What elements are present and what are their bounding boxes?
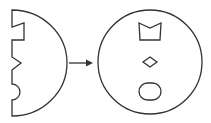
diagram-canvas: [0, 0, 211, 123]
diamond-shape: [143, 57, 157, 67]
trapezoid-shape: [139, 23, 161, 40]
diagram-svg: [0, 0, 211, 123]
right-circle-shape: [98, 10, 202, 114]
arrow-right-icon: [69, 60, 93, 67]
capsule-shape: [139, 83, 161, 100]
left-half-disc-shape: [12, 10, 67, 116]
